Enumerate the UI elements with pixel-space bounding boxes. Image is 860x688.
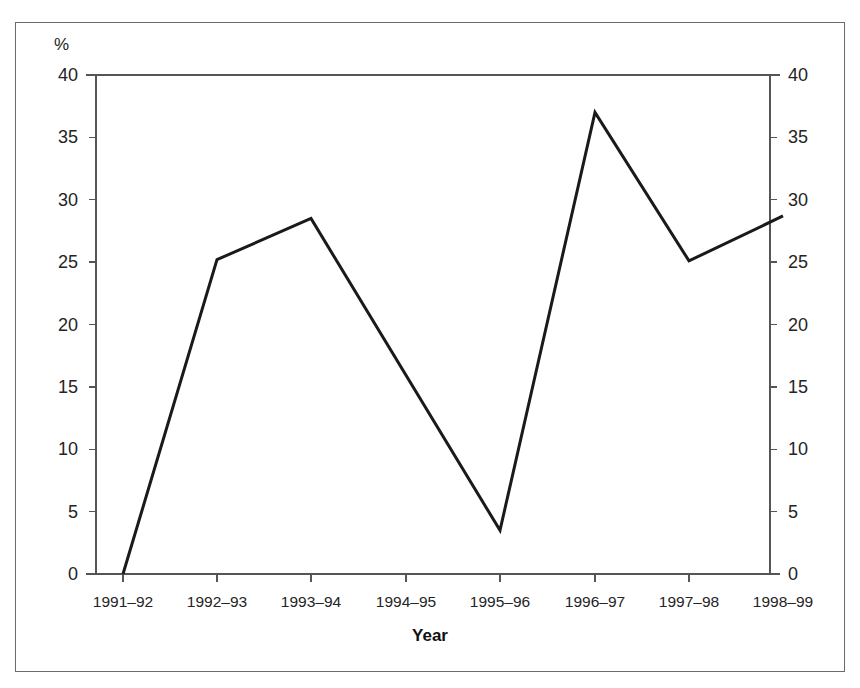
x-tick-label: 1993–94 — [264, 594, 358, 610]
y-tick-label-right: 0 — [788, 565, 844, 583]
data-series-line — [123, 112, 783, 574]
y-tick-label-left: 10 — [22, 440, 78, 458]
y-tick-label-left: 25 — [22, 253, 78, 271]
y-tick-label-right: 20 — [788, 316, 844, 334]
x-axis-title: Year — [0, 627, 860, 644]
y-tick-label-left: 35 — [22, 128, 78, 146]
x-tick-label: 1997–98 — [642, 594, 736, 610]
y-tick-label-right: 35 — [788, 128, 844, 146]
y-tick-label-left: 0 — [22, 565, 78, 583]
x-tick-label: 1994–95 — [359, 594, 453, 610]
x-tick-label: 1996–97 — [548, 594, 642, 610]
x-tick-label: 1995–96 — [453, 594, 547, 610]
y-tick-label-left: 30 — [22, 191, 78, 209]
x-tick-label: 1992–93 — [170, 594, 264, 610]
y-tick-label-right: 40 — [788, 66, 844, 84]
y-tick-label-left: 5 — [22, 503, 78, 521]
x-axis-ticks — [123, 574, 689, 582]
x-tick-label: 1998–99 — [736, 594, 830, 610]
y-tick-label-left: 20 — [22, 316, 78, 334]
y-tick-label-left: 40 — [22, 66, 78, 84]
y-axis-unit-label: % — [54, 36, 69, 53]
y-axis-left-ticks — [86, 75, 96, 574]
x-tick-label: 1991–92 — [76, 594, 170, 610]
y-tick-label-right: 5 — [788, 503, 844, 521]
y-axis-right-ticks — [770, 75, 780, 574]
y-tick-label-left: 15 — [22, 378, 78, 396]
y-tick-label-right: 30 — [788, 191, 844, 209]
chart-canvas — [0, 0, 860, 688]
y-tick-label-right: 15 — [788, 378, 844, 396]
figure-container: % 0510152025303540 0510152025303540 1991… — [0, 0, 860, 688]
y-tick-label-right: 10 — [788, 440, 844, 458]
y-tick-label-right: 25 — [788, 253, 844, 271]
